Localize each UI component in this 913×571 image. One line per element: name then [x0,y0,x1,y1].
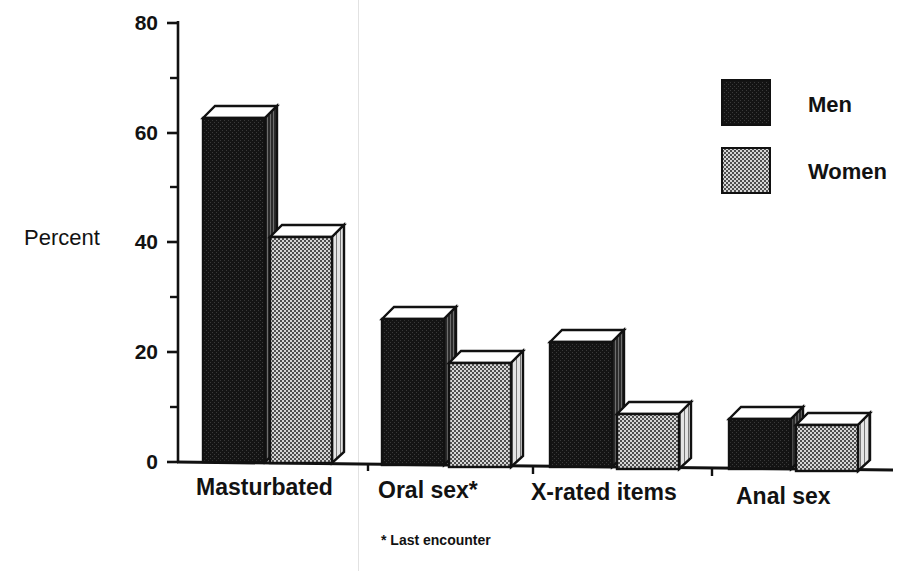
legend-label-women: Women [808,159,887,185]
x-category-label-masturbated: Masturbated [196,474,333,501]
bar-group-anal-sex [729,407,870,471]
bar-group-oral-sex [382,307,523,467]
bar-men-oral-sex [382,307,456,465]
y-tick-label-40: 40 [100,230,158,254]
y-axis-title: Percent [24,225,100,251]
legend-swatches [722,80,770,193]
bar-men-masturbated [203,106,277,462]
light-dither-swatch [722,148,770,193]
bar-chart: 80 60 40 20 0 Percent Masturbated Oral s… [0,0,913,571]
dark-dither-swatch [722,80,770,125]
x-category-label-oral-sex: Oral sex* [378,477,478,504]
bar-women-x-rated-items [617,402,691,469]
bar-women-oral-sex [449,351,523,467]
bar-group-x-rated-items [550,330,691,469]
y-axis [167,21,178,463]
bar-group-masturbated [203,106,344,463]
x-category-label-x-rated-items: X-rated items [531,479,677,506]
footnote: * Last encounter [381,532,491,548]
bar-men-x-rated-items [550,330,624,467]
bar-women-anal-sex [796,413,870,471]
x-category-label-anal-sex: Anal sex [736,483,831,510]
bar-women-masturbated [270,225,344,463]
y-tick-label-20: 20 [100,340,158,364]
y-tick-label-0: 0 [100,450,158,474]
legend-label-men: Men [808,92,852,118]
bar-men-anal-sex [729,407,803,469]
y-tick-label-80: 80 [100,11,158,35]
y-tick-label-60: 60 [100,121,158,145]
